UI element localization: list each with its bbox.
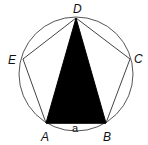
label-d: D [73, 2, 82, 16]
label-a: A [40, 130, 49, 144]
label-e: E [8, 53, 17, 67]
side-length-label: a [72, 122, 79, 134]
pentagon-diagram: D E C A B a [0, 0, 148, 145]
label-b: B [103, 130, 111, 144]
label-c: C [134, 52, 143, 66]
